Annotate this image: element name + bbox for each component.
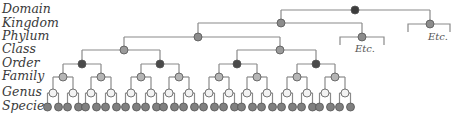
species-node	[278, 103, 286, 111]
class-node	[120, 46, 128, 54]
species-node	[336, 103, 344, 111]
species-node	[269, 103, 277, 111]
family-node	[175, 73, 183, 81]
family-node	[293, 73, 301, 81]
species-node	[200, 103, 208, 111]
order-node	[233, 60, 241, 68]
genus-node	[49, 89, 57, 97]
species-node	[249, 103, 257, 111]
genus-node	[225, 89, 233, 97]
species-node	[327, 103, 335, 111]
genus-node	[127, 89, 135, 97]
etc-label: Etc.	[427, 31, 448, 42]
species-node	[55, 103, 63, 111]
species-node	[44, 103, 52, 111]
order-node	[156, 60, 164, 68]
species-node	[316, 103, 324, 111]
order-node	[78, 60, 86, 68]
taxonomy-tree: Etc.Etc.	[0, 0, 453, 117]
genus-node	[283, 89, 291, 97]
species-node	[180, 103, 188, 111]
genus-node	[107, 89, 115, 97]
genus-node	[303, 89, 311, 97]
family-node	[215, 73, 223, 81]
species-node	[102, 103, 110, 111]
genus-node	[87, 89, 95, 97]
genus-node	[263, 89, 271, 97]
species-node	[93, 103, 101, 111]
species-node	[122, 103, 130, 111]
species-node	[289, 103, 297, 111]
species-node	[211, 103, 219, 111]
species-node	[160, 103, 168, 111]
genus-node	[165, 89, 173, 97]
species-node	[64, 103, 72, 111]
phylum-node	[358, 33, 366, 41]
family-node	[331, 73, 339, 81]
species-node	[133, 103, 141, 111]
phylum-node	[194, 33, 202, 41]
genus-node	[205, 89, 213, 97]
species-node	[258, 103, 266, 111]
class-node	[276, 46, 284, 54]
species-node	[220, 103, 228, 111]
family-node	[137, 73, 145, 81]
family-node	[97, 73, 105, 81]
species-node	[171, 103, 179, 111]
species-node	[191, 103, 199, 111]
genus-node	[341, 89, 349, 97]
species-node	[298, 103, 306, 111]
genus-node	[243, 89, 251, 97]
kingdom-node	[426, 20, 434, 28]
order-node	[312, 60, 320, 68]
species-node	[347, 103, 355, 111]
etc-label: Etc.	[354, 43, 375, 54]
species-node	[142, 103, 150, 111]
species-node	[82, 103, 90, 111]
genus-node	[321, 89, 329, 97]
family-node	[59, 73, 67, 81]
genus-node	[185, 89, 193, 97]
species-node	[238, 103, 246, 111]
kingdom-node	[277, 19, 285, 27]
domain-node	[351, 6, 359, 14]
genus-node	[69, 89, 77, 97]
species-node	[113, 103, 121, 111]
genus-node	[147, 89, 155, 97]
family-node	[253, 73, 261, 81]
